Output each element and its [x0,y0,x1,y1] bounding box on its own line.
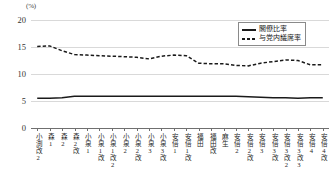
x-axis-label: 小渕改2 [33,133,42,161]
legend-entry-cabinet-ratio: 閣僚比率 [242,25,301,34]
dashed-line-icon [242,35,256,42]
x-axis-label: 小泉3 [145,133,154,154]
x-axis-label: 安倍4改 [318,133,327,161]
x-tick-20 [286,128,287,131]
x-tick-9 [149,128,150,131]
x-tick-3 [75,128,76,131]
legend-label-ruling-party-seat-ratio: 与党内議席率 [259,34,301,43]
x-tick-16 [236,128,237,131]
x-axis-label: 森1 [45,133,54,147]
x-axis-label: 森2改 [70,133,79,154]
x-axis-label: 福田 [194,133,203,147]
x-tick-12 [186,128,187,131]
x-tick-7 [124,128,125,131]
x-tick-0 [37,128,38,131]
x-tick-11 [174,128,175,131]
solid-line-icon [242,26,256,33]
x-tick-22 [310,128,311,131]
x-axis-label: 安倍3改2 [281,133,290,168]
x-tick-18 [261,128,262,131]
x-tick-13 [199,128,200,131]
x-tick-6 [112,128,113,131]
x-tick-2 [62,128,63,131]
x-axis-label: 小泉2 [120,133,129,154]
series-line-ruling-party-seat-ratio [37,46,323,66]
x-axis-label: 安倍1改 [182,133,191,161]
x-axis-label: 安倍2 [231,133,240,154]
x-tick-10 [161,128,162,131]
x-axis-label: 福田改 [207,133,216,154]
x-tick-4 [87,128,88,131]
x-tick-5 [99,128,100,131]
x-axis-label: 安倍2改 [244,133,253,161]
x-axis-label: 安倍3 [256,133,265,154]
x-axis-label: 小泉2改 [132,133,141,161]
legend: 閣僚比率 与党内議席率 [238,22,306,46]
x-axis-label: 安倍1 [169,133,178,154]
x-axis-label: 小泉1改2 [107,133,116,168]
x-tick-23 [323,128,324,131]
x-axis-label: 森2 [58,133,67,147]
x-tick-19 [273,128,274,131]
x-tick-15 [224,128,225,131]
x-tick-1 [50,128,51,131]
x-tick-21 [298,128,299,131]
x-axis-label: 安倍3改3 [294,133,303,168]
x-axis-label: 小泉3改 [157,133,166,161]
x-axis-label: 安倍3改 [269,133,278,161]
series-line-cabinet-ratio [37,96,323,98]
x-tick-17 [248,128,249,131]
x-tick-14 [211,128,212,131]
x-axis-label: 小泉1改 [95,133,104,161]
x-axis-label: 安倍4 [306,133,315,154]
legend-label-cabinet-ratio: 閣僚比率 [259,25,287,34]
x-tick-8 [137,128,138,131]
x-axis-label: 麻生 [219,133,228,147]
x-axis-label: 小泉1 [82,133,91,154]
line-chart: (%) 20 15 10 5 0 小渕改2森1森2森2改小泉1小泉1改小泉1改2… [0,0,331,194]
legend-entry-ruling-party-seat-ratio: 与党内議席率 [242,34,301,43]
